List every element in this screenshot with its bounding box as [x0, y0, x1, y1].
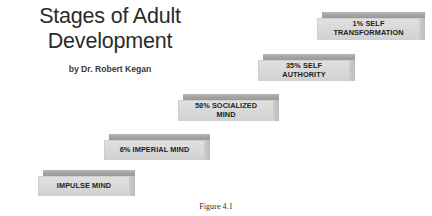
figure-caption: Figure 4.1 — [0, 202, 432, 211]
stage-step-self-transformation[interactable]: 1% SELF TRANSFORMATION — [317, 12, 425, 40]
step-side-face — [350, 60, 355, 81]
stage-label: 58% SOCIALIZED MIND — [192, 102, 260, 120]
stage-label: 1% SELF TRANSFORMATION — [330, 20, 406, 38]
step-front-face: IMPULSE MIND — [38, 176, 130, 196]
page-title: Stages of Adult Development — [12, 4, 208, 55]
figure-canvas: Stages of Adult Development by Dr. Rober… — [0, 0, 432, 216]
stage-step-socialized-mind[interactable]: 58% SOCIALIZED MIND — [178, 94, 279, 121]
step-front-face: 58% SOCIALIZED MIND — [178, 100, 274, 121]
stage-step-self-authority[interactable]: 35% SELF AUTHORITY — [258, 54, 355, 81]
step-side-face — [130, 176, 135, 196]
stage-step-imperial-mind[interactable]: 6% IMPERIAL MIND — [104, 134, 210, 160]
step-side-face — [274, 100, 279, 121]
step-front-face: 6% IMPERIAL MIND — [104, 140, 205, 160]
step-side-face — [420, 18, 425, 40]
stage-label: 6% IMPERIAL MIND — [117, 146, 193, 155]
stage-label: 35% SELF AUTHORITY — [279, 62, 328, 80]
stage-label: IMPULSE MIND — [54, 182, 114, 191]
step-front-face: 1% SELF TRANSFORMATION — [317, 18, 420, 40]
step-front-face: 35% SELF AUTHORITY — [258, 60, 350, 81]
stage-step-impulse-mind[interactable]: IMPULSE MIND — [38, 170, 135, 196]
author-byline: by Dr. Robert Kegan — [12, 64, 208, 74]
step-side-face — [205, 140, 210, 160]
